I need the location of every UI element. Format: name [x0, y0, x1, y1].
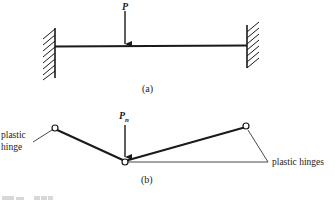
left-hinge-leader-line [33, 130, 52, 142]
left-fixed-support-icon [43, 28, 55, 80]
right-hinges-label: plastic hinges [272, 157, 324, 167]
collapse-load-label: Pn [119, 110, 129, 124]
right-fixed-support-icon [247, 22, 259, 68]
part-b-collapse-mechanism: Pn plastic hinge plastic hinges (b) [1, 110, 324, 186]
collapse-load-subscript: n [125, 116, 129, 124]
caption-a: (a) [142, 83, 153, 95]
cropped-figure-caption [2, 196, 53, 200]
right-beam-segment [125, 127, 246, 161]
beam-line [55, 46, 247, 47]
left-beam-segment [55, 129, 125, 161]
left-hinge-label-line2: hinge [1, 142, 22, 152]
left-hinge-label-line1: plastic [1, 130, 26, 140]
center-plastic-hinge-icon [122, 159, 128, 165]
right-hinge-leader-line [248, 130, 268, 162]
caption-b: (b) [141, 174, 153, 186]
beam-diagram: P (a) Pn plastic hinge plastic hinges (b… [0, 0, 335, 200]
left-plastic-hinge-icon [52, 125, 58, 131]
load-label-p: P [122, 1, 129, 12]
part-a-fixed-beam: P (a) [43, 1, 259, 95]
right-plastic-hinge-icon [243, 123, 249, 129]
